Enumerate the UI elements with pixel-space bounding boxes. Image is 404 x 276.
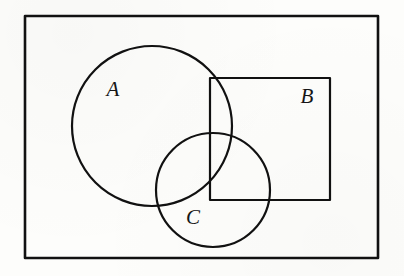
set-c-label: C	[186, 205, 201, 229]
diagram-background	[0, 0, 404, 276]
diagram-canvas: A B C	[0, 0, 404, 276]
set-a-label: A	[105, 77, 120, 101]
set-diagram-figure: A B C	[0, 0, 404, 276]
set-b-label: B	[301, 84, 314, 108]
